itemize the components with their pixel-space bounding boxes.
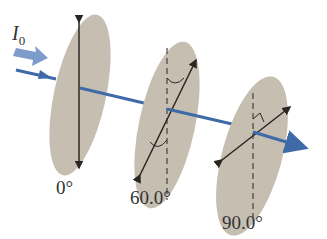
incident-beam-arrowhead	[38, 70, 52, 79]
polarizer-1-angle-label: 0°	[56, 178, 73, 197]
incident-light-arrow	[13, 46, 48, 66]
polarizer-diagram: I0 0° 60.0° 90.0°	[0, 0, 327, 239]
incident-intensity-label: I0	[12, 22, 25, 49]
polarizer-3-angle-label: 90.0°	[222, 213, 263, 232]
polarizer-2-angle-label: 60.0°	[130, 188, 171, 207]
